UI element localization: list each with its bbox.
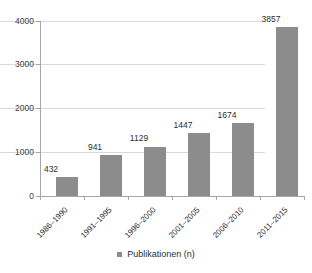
bar-value-1991-1995: 941 (80, 143, 110, 152)
x-tick-1 (84, 196, 85, 200)
x-tick-4 (216, 196, 217, 200)
y-axis-label-2000: 2000 (0, 104, 34, 113)
bar-2001-2005[interactable] (188, 133, 210, 196)
y-axis-label-1000: 1000 (0, 148, 34, 157)
y-axis-label-0: 0 (0, 192, 34, 201)
y-axis-label-3000: 3000 (0, 60, 34, 69)
bar-chart: 4000 3000 2000 1000 0 432 941 1129 1447 … (0, 0, 312, 273)
x-tick-3 (172, 196, 173, 200)
x-tick-6 (304, 196, 305, 200)
legend-swatch-icon (117, 252, 122, 257)
bar-2006-2010[interactable] (232, 123, 254, 196)
bars-group (40, 21, 305, 196)
bar-value-2006-2010: 1674 (210, 111, 244, 120)
bar-1986-1990[interactable] (56, 177, 78, 196)
bar-value-2001-2005: 1447 (166, 121, 200, 130)
bar-value-1986-1990: 432 (36, 165, 66, 174)
bar-1996-2000[interactable] (144, 147, 166, 196)
y-axis-label-4000: 4000 (0, 17, 34, 26)
legend-label-publikationen: Publikationen (n) (127, 250, 195, 259)
x-tick-5 (260, 196, 261, 200)
bar-value-1996-2000: 1129 (122, 134, 156, 143)
x-tick-0 (40, 196, 41, 200)
bar-2011-2015[interactable] (276, 27, 298, 196)
chart-legend: Publikationen (n) (0, 250, 312, 259)
x-tick-2 (128, 196, 129, 200)
bar-value-2011-2015: 3857 (254, 15, 288, 24)
bar-1991-1995[interactable] (100, 155, 122, 196)
